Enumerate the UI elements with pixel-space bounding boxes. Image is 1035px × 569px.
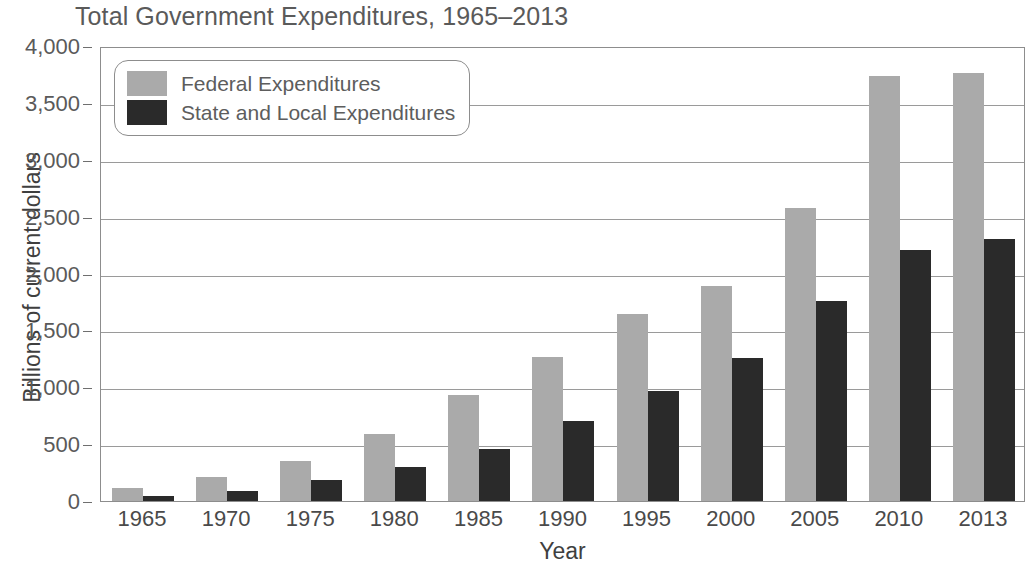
bar-state-local xyxy=(143,496,174,501)
x-axis-tick-labels: 1965197019751980198519901995200020052010… xyxy=(100,506,1025,538)
bar-state-local xyxy=(648,391,679,501)
x-tick-label: 1990 xyxy=(538,506,587,532)
bar-state-local xyxy=(732,358,763,501)
bar-federal xyxy=(953,73,984,501)
y-tick-mark xyxy=(83,161,92,162)
bar-state-local xyxy=(395,467,426,501)
y-tick-mark xyxy=(83,275,92,276)
bar-federal xyxy=(448,395,479,501)
y-axis-tick-labels: 05001,0001,5002,0002,5003,0003,5004,000 xyxy=(0,47,92,502)
y-tick-label: 2,000 xyxy=(25,262,80,288)
x-tick-label: 2005 xyxy=(790,506,839,532)
bar-federal xyxy=(532,357,563,501)
y-tick-mark xyxy=(83,218,92,219)
plot-area: Federal Expenditures State and Local Exp… xyxy=(100,47,1025,502)
bar-state-local xyxy=(563,421,594,501)
legend-swatch-state-local xyxy=(127,100,167,125)
bar-federal xyxy=(280,461,311,501)
bar-state-local xyxy=(479,449,510,501)
x-tick-label: 1980 xyxy=(370,506,419,532)
y-tick-label: 3,000 xyxy=(25,148,80,174)
bar-federal xyxy=(112,488,143,501)
bar-federal xyxy=(785,208,816,501)
bar-state-local xyxy=(900,250,931,501)
bar-group xyxy=(774,48,858,501)
bar-federal xyxy=(617,314,648,501)
x-tick-label: 2010 xyxy=(874,506,923,532)
y-tick-mark xyxy=(83,502,92,503)
legend-label-federal: Federal Expenditures xyxy=(181,72,381,96)
y-tick-mark xyxy=(83,47,92,48)
y-tick-mark xyxy=(83,388,92,389)
y-tick-mark xyxy=(83,104,92,105)
y-tick-label: 2,500 xyxy=(25,205,80,231)
x-tick-label: 1965 xyxy=(118,506,167,532)
bar-state-local xyxy=(816,301,847,501)
y-tick-label: 1,000 xyxy=(25,375,80,401)
bar-group xyxy=(858,48,942,501)
bar-federal xyxy=(701,286,732,501)
chart-title: Total Government Expenditures, 1965–2013 xyxy=(75,2,568,31)
legend-swatch-federal xyxy=(127,71,167,96)
y-tick-label: 3,500 xyxy=(25,91,80,117)
bar-federal xyxy=(364,434,395,501)
bar-group xyxy=(690,48,774,501)
y-tick-label: 500 xyxy=(43,432,80,458)
x-tick-label: 1975 xyxy=(286,506,335,532)
y-tick-label: 0 xyxy=(68,489,80,515)
bar-group xyxy=(521,48,605,501)
y-tick-mark xyxy=(83,331,92,332)
chart-figure: Total Government Expenditures, 1965–2013… xyxy=(0,0,1035,569)
y-tick-mark xyxy=(83,445,92,446)
x-tick-label: 1985 xyxy=(454,506,503,532)
bar-group xyxy=(606,48,690,501)
x-tick-label: 2000 xyxy=(706,506,755,532)
legend-label-state-local: State and Local Expenditures xyxy=(181,101,455,125)
x-tick-label: 1995 xyxy=(622,506,671,532)
bar-federal xyxy=(869,76,900,501)
bar-group xyxy=(942,48,1026,501)
chart-legend: Federal Expenditures State and Local Exp… xyxy=(114,60,470,136)
bar-federal xyxy=(196,477,227,501)
bar-state-local xyxy=(984,239,1015,501)
y-tick-label: 4,000 xyxy=(25,34,80,60)
bar-state-local xyxy=(311,480,342,501)
legend-item: Federal Expenditures xyxy=(127,69,455,98)
legend-item: State and Local Expenditures xyxy=(127,98,455,127)
bar-state-local xyxy=(227,491,258,501)
y-tick-label: 1,500 xyxy=(25,318,80,344)
x-axis-title: Year xyxy=(100,538,1025,565)
x-tick-label: 1970 xyxy=(202,506,251,532)
x-tick-label: 2013 xyxy=(958,506,1007,532)
